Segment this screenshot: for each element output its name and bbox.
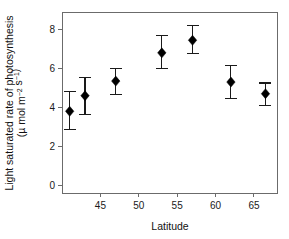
x-tick-label: 45 [95,200,107,211]
plot-frame [62,12,277,193]
unit-text: s [12,80,24,88]
x-tick-label: 50 [133,200,145,211]
y-axis-ticks: 02468 [49,24,62,191]
x-axis-title-group: Latitude [151,220,189,232]
y-tick-label: 6 [49,63,55,74]
y-tick-label: 2 [49,141,55,152]
plot-frame-border [62,12,277,193]
figure-root: 02468 4550556065 Latitude Light saturate… [0,0,289,239]
data-markers [65,35,269,116]
data-point-marker [227,77,235,87]
data-point-marker [81,91,89,101]
unit-superscript: −2 [16,88,23,96]
data-point-marker [188,35,196,45]
y-tick-label: 8 [49,24,55,35]
y-tick-label: 4 [49,102,55,113]
error-bars [64,26,272,130]
x-tick-label: 60 [210,200,222,211]
data-point-marker [261,89,269,99]
x-tick-label: 55 [172,200,184,211]
x-tick-label: 65 [248,200,260,211]
data-point-marker [112,76,120,86]
data-point-marker [158,48,166,58]
unit-text: ) [9,69,21,73]
unit-superscript: −1 [13,72,20,80]
y-axis-title-line1: Light saturated rate of photosynthesis [3,15,15,190]
unit-text: mol m [15,96,27,128]
data-point-marker [65,106,73,116]
scatter-chart-with-error-bars: 02468 4550556065 Latitude Light saturate… [0,0,289,239]
y-tick-label: 0 [49,180,55,191]
x-axis-ticks: 4550556065 [95,193,260,211]
y-axis-title-group: Light saturated rate of photosynthesis (… [3,15,27,190]
x-axis-title: Latitude [151,220,189,232]
